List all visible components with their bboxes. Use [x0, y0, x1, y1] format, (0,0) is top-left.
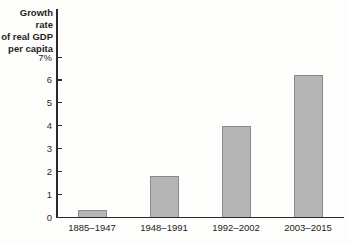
- y-axis-title-line: Growth rate: [0, 7, 53, 31]
- bar: [150, 176, 179, 217]
- y-tick-label: 5: [0, 97, 52, 108]
- y-tick: [58, 148, 62, 149]
- y-tick: [58, 125, 62, 126]
- x-category-label: 1948–1991: [129, 222, 199, 233]
- y-tick-label: 4: [0, 120, 52, 131]
- bar: [294, 75, 323, 217]
- y-tick-label: 7%: [0, 52, 52, 63]
- x-category-label: 1992–2002: [201, 222, 271, 233]
- gdp-growth-per-capita-bar-chart: Growth rateof real GDPper capita 0123456…: [0, 0, 350, 245]
- y-tick-label: 0: [0, 212, 52, 223]
- y-axis-title-line: of real GDP: [0, 31, 53, 43]
- y-tick: [58, 217, 62, 218]
- y-tick: [58, 102, 62, 103]
- bar: [222, 126, 251, 217]
- y-axis-line: [56, 9, 58, 218]
- y-tick: [58, 57, 62, 58]
- y-tick-label: 3: [0, 143, 52, 154]
- y-axis-title: Growth rateof real GDPper capita: [0, 7, 53, 55]
- y-tick: [58, 194, 62, 195]
- y-tick: [58, 171, 62, 172]
- y-tick-label: 6: [0, 74, 52, 85]
- bar: [78, 210, 107, 217]
- x-category-label: 1885–1947: [57, 222, 127, 233]
- y-tick: [58, 79, 62, 80]
- y-tick-label: 1: [0, 189, 52, 200]
- x-category-label: 2003–2015: [273, 222, 343, 233]
- y-tick-label: 2: [0, 166, 52, 177]
